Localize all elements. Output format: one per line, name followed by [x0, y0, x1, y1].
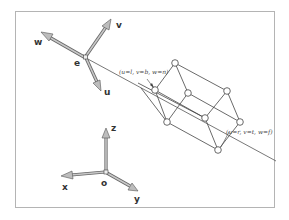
world-frame: z x y o	[61, 123, 140, 204]
x-axis-arrow	[61, 171, 105, 179]
y-axis-arrow	[107, 173, 138, 191]
near-corner-label: (u=l, v=b, w=n)	[119, 68, 169, 75]
w-axis-label: w	[34, 37, 42, 47]
v-axis-arrow	[86, 19, 111, 56]
world-origin-label: o	[101, 178, 107, 188]
camera-origin-label: e	[74, 58, 80, 68]
y-axis-label: y	[134, 194, 140, 204]
frustum	[138, 63, 240, 150]
camera-frame: w v u e	[34, 19, 122, 97]
far-corner-label: (u=r, v=t, w=f)	[226, 128, 273, 136]
u-axis-arrow	[86, 58, 101, 91]
v-axis-label: v	[116, 20, 122, 30]
z-axis-arrow	[102, 128, 110, 172]
u-axis-label: u	[104, 87, 110, 97]
x-axis-label: x	[62, 182, 68, 192]
world-origin-marker	[104, 170, 108, 174]
view-direction-line	[86, 58, 276, 161]
diagram-canvas: w v u e (u=l, v=b, w=n)	[0, 0, 289, 220]
z-axis-label: z	[111, 123, 116, 133]
w-axis-arrow	[41, 32, 84, 57]
camera-origin-marker	[84, 55, 88, 59]
